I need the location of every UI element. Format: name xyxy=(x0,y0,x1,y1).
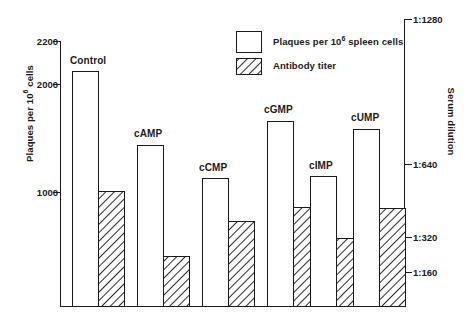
bar-titer-cump xyxy=(380,209,406,307)
bar-label-cimp: cIMP xyxy=(309,160,333,171)
right-tick-label-group: 1:1280 1:640 1:320 1:160 xyxy=(413,0,465,325)
bar-plaques-control xyxy=(73,72,99,307)
left-tick-label-2000: 2000 xyxy=(37,79,58,90)
left-tick-label-group: 2200 2000 1000 xyxy=(18,0,58,325)
bar-plaques-cimp xyxy=(311,177,337,307)
bar-label-control: Control xyxy=(70,55,106,66)
right-tick-label-1-160: 1:160 xyxy=(413,267,437,278)
left-tick-label-2200: 2200 xyxy=(37,36,58,47)
legend-swatch-plaques xyxy=(237,32,262,53)
bar-group-control xyxy=(73,72,125,307)
right-tick-label-1-320: 1:320 xyxy=(413,232,437,243)
chart-plot-area xyxy=(0,0,465,325)
bar-label-ccmp: cCMP xyxy=(199,162,227,173)
bar-plaques-ccmp xyxy=(203,179,229,307)
bar-plaques-cump xyxy=(354,130,380,307)
bar-titer-control xyxy=(99,192,125,307)
bar-chart-figure: Plaques per 106 cells Serum dilution 220… xyxy=(0,0,465,325)
bar-group-ccmp xyxy=(203,179,255,307)
bar-label-cgmp: cGMP xyxy=(264,104,293,115)
bar-titer-ccmp xyxy=(229,222,255,307)
bar-plaques-cgmp xyxy=(268,122,294,307)
legend-label-plaques-post: spleen cells xyxy=(345,36,403,47)
bar-group-cump xyxy=(354,130,406,307)
legend-label-plaques-pre: Plaques per 10 xyxy=(273,36,341,47)
bar-label-cump: cUMP xyxy=(351,112,379,123)
legend-swatch-titer xyxy=(237,59,262,75)
bar-titer-camp xyxy=(164,257,190,307)
bar-plaques-camp xyxy=(138,146,164,307)
bar-label-camp: cAMP xyxy=(134,128,162,139)
left-tick-label-1000: 1000 xyxy=(37,187,58,198)
legend-label-titer: Antibody titer xyxy=(273,60,336,71)
right-tick-label-1-640: 1:640 xyxy=(413,159,437,170)
right-tick-label-1-1280: 1:1280 xyxy=(413,14,443,25)
bar-group-camp xyxy=(138,146,190,307)
legend-label-plaques: Plaques per 106 spleen cells xyxy=(273,36,403,47)
